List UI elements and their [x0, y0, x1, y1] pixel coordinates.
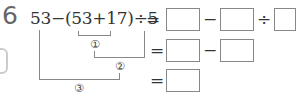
step-label-1: ①: [90, 39, 100, 51]
problem-number: 6: [2, 2, 18, 30]
bracket-3-left: [39, 30, 40, 80]
minus-sign-1: −: [203, 9, 217, 29]
divide-sign-1: ÷: [257, 9, 271, 29]
bracket-1-bottom: [78, 35, 111, 36]
bracket-1-right: [110, 31, 111, 35]
minus-sign-2: −: [203, 40, 217, 60]
bracket-3-right: [119, 73, 120, 79]
equals-sign-2: =: [150, 40, 164, 60]
answer-box-1-1[interactable]: [166, 8, 200, 31]
math-expression: 53−(53+17)÷5: [30, 7, 158, 29]
step-label-3: ③: [74, 83, 84, 95]
bracket-2-right: [144, 31, 145, 57]
answer-box-1-2[interactable]: [220, 8, 254, 31]
answer-box-2-2[interactable]: [220, 39, 254, 62]
bracket-2-bottom: [94, 57, 145, 58]
bracket-3-bottom: [39, 79, 120, 80]
equals-sign-1: =: [146, 9, 160, 29]
step-label-2: ②: [115, 61, 125, 73]
answer-box-3-1[interactable]: [166, 69, 200, 92]
answer-box-2-1[interactable]: [166, 39, 200, 62]
decorative-circle: [0, 48, 8, 74]
equals-sign-3: =: [150, 70, 164, 90]
answer-box-1-3[interactable]: [274, 8, 296, 31]
